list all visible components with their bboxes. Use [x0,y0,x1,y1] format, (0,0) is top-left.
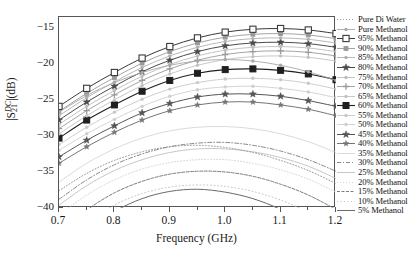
legend-item[interactable]: 5% Methanol [336,206,419,216]
data-point-marker [344,47,348,51]
data-point-marker [251,77,254,80]
data-point-marker [113,110,116,113]
data-point-marker [343,103,349,109]
data-point-marker [166,100,173,107]
legend-label: 60% Methanol [356,101,408,110]
x-axis-minor-tick-mark [86,207,87,210]
legend-item[interactable]: 70% Methanol [336,82,419,92]
data-point-marker [84,107,90,113]
data-point-marker [279,32,283,36]
series-55-methanol [59,77,336,147]
series-line [59,185,336,208]
data-point-marker [224,85,227,88]
legend-item[interactable]: 25% Methanol [336,168,419,178]
data-point-marker [342,131,349,138]
legend-label: Pure Di Water [356,15,406,24]
data-point-marker [278,25,284,31]
data-point-marker [113,76,117,80]
data-point-marker [251,59,254,62]
y-axis-tick-label: −25 [37,93,54,104]
data-point-marker [83,137,90,144]
data-point-marker [139,77,145,83]
data-point-marker [168,87,171,90]
chart-legend: Pure Di WaterPure Methanol95% Methanol90… [336,15,419,185]
legend-sample-line-icon [336,178,356,187]
data-point-marker [59,160,62,165]
x-axis-tick-mark [280,207,281,212]
data-point-marker [196,81,199,84]
data-point-marker [250,66,256,72]
data-point-marker [344,123,347,126]
legend-label: 25% Methanol [356,168,408,177]
data-point-marker [194,93,201,100]
legend-sample-line-icon [336,206,356,215]
data-point-marker [84,85,90,91]
y-axis-tick-label: −20 [37,57,54,68]
data-point-marker [85,114,88,117]
x-axis-tick-label: 0.9 [149,214,189,227]
data-point-marker [222,99,228,104]
legend-sample-open-square-icon [336,34,356,43]
x-axis-tick-label: 1.2 [315,214,355,227]
data-point-marker [307,38,310,41]
x-axis-tick-label: 1.1 [260,214,300,227]
data-point-marker [305,106,311,111]
data-point-marker [222,51,228,57]
legend-label: 70% Methanol [356,82,408,91]
legend-sample-dot-small-icon [336,25,356,34]
legend-label: 95% Methanol [356,34,408,43]
data-point-marker [195,70,201,76]
data-point-marker [279,78,282,81]
data-point-marker [279,64,282,67]
data-point-marker [344,75,347,78]
data-point-marker [342,64,349,71]
data-point-marker [278,102,284,107]
data-point-marker [113,89,116,92]
data-point-marker [140,84,143,87]
y-axis-title: |SDC21|(dB) [5,59,19,139]
legend-label: 15% Methanol [356,187,408,196]
data-point-marker [307,70,310,73]
data-point-marker [140,74,143,77]
y-axis-title-prefix: |S [5,112,17,121]
data-point-marker [305,27,311,33]
data-point-marker [85,132,88,135]
data-point-marker [139,117,145,122]
data-point-marker [223,35,227,39]
data-point-marker [250,26,256,32]
data-point-marker [168,54,171,57]
legend-sample-dot-small-icon [336,92,356,101]
legend-sample-dot-small-icon [336,111,356,120]
data-point-marker [113,98,116,101]
legend-sample-line-icon [336,158,356,167]
legend-item[interactable]: 15% Methanol [336,187,419,197]
data-point-marker [140,66,143,69]
legend-label: 80% Methanol [356,63,408,72]
x-axis-minor-tick-mark [141,207,142,210]
data-point-marker [113,81,116,84]
series-5-methanol [59,189,336,208]
legend-sample-dot-small-icon [336,120,356,129]
y-axis-title-suffix: |(dB) [5,77,17,100]
series-line [59,145,336,190]
data-point-marker [305,97,312,104]
data-point-marker [307,46,310,49]
data-point-marker [59,153,63,160]
data-point-marker [224,40,227,43]
x-axis-tick-label: 0.8 [93,214,133,227]
series-10-methanol [59,185,336,208]
data-point-marker [111,102,117,108]
data-point-marker [196,88,199,91]
data-point-marker [307,82,310,85]
x-axis-tick-mark [169,207,170,212]
data-point-marker [168,50,172,54]
series-line [59,148,336,205]
y-axis-tick-label: −35 [37,165,54,176]
data-point-marker [224,48,227,51]
x-axis-tick-mark [113,207,114,212]
legend-label: 5% Methanol [356,206,403,215]
legend-item[interactable]: 80% Methanol [336,63,419,73]
data-point-marker [277,93,284,100]
data-point-marker [84,117,90,123]
data-point-marker [111,92,117,98]
